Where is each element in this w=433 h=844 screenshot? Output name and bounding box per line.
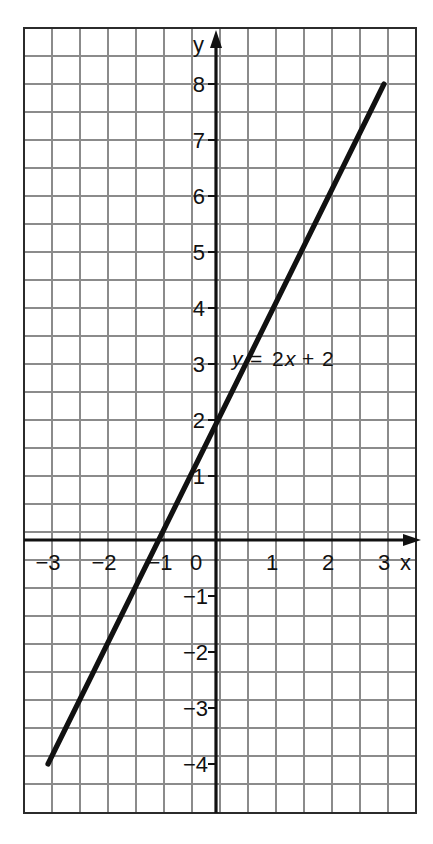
y-tick-label-5: 5 (193, 240, 205, 265)
y-tick-label-minus-1: −1 (183, 584, 208, 609)
x-tick-label-minus-3: −3 (35, 550, 60, 575)
y-axis-label: y (193, 32, 204, 57)
graph-figure: y x 8 7 6 5 4 3 2 1 −1 −2 −3 −4 −3 −2 −1… (0, 0, 433, 844)
y-tick-label-minus-4: −4 (183, 752, 208, 777)
equation-x-symbol: x (284, 347, 297, 370)
x-tick-label-0: 0 (190, 550, 202, 575)
y-tick-label-minus-3: −3 (183, 696, 208, 721)
y-tick-label-6: 6 (193, 184, 205, 209)
x-tick-label-2: 2 (322, 550, 334, 575)
equation-equals-sign: = (250, 347, 262, 370)
x-tick-label-1: 1 (266, 550, 278, 575)
equation-coefficient: 2 (272, 347, 284, 370)
equation-constant: 2 (322, 347, 334, 370)
equation-y-symbol: y (230, 347, 244, 370)
y-tick-label-2: 2 (193, 408, 205, 433)
y-tick-label-4: 4 (193, 296, 205, 321)
x-tick-label-minus-1: −1 (147, 550, 172, 575)
y-tick-label-3: 3 (193, 352, 205, 377)
y-tick-label-minus-2: −2 (183, 640, 208, 665)
y-tick-label-7: 7 (193, 128, 205, 153)
x-tick-label-minus-2: −2 (91, 550, 116, 575)
y-tick-label-8: 8 (193, 72, 205, 97)
x-axis-label: x (400, 550, 411, 575)
y-tick-label-1: 1 (193, 464, 205, 489)
equation-plus-sign: + (302, 347, 314, 370)
plot-area: y x 8 7 6 5 4 3 2 1 −1 −2 −3 −4 −3 −2 −1… (0, 0, 433, 844)
x-tick-label-3: 3 (378, 550, 390, 575)
